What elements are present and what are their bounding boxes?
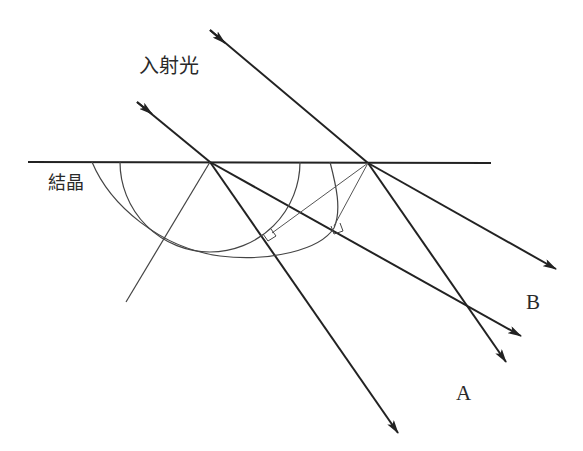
elliptical-wavefront <box>92 162 338 258</box>
birefringence-diagram <box>0 0 583 451</box>
refracted-ray-b-right <box>368 163 556 269</box>
refracted-ray-a-left <box>210 162 398 433</box>
incident-light-label: 入射光 <box>139 56 199 76</box>
right-angle-marker-ordinary <box>263 229 276 241</box>
ray-b-label: B <box>526 292 540 313</box>
crystal-label: 結晶 <box>48 174 84 192</box>
crystal-surface <box>28 162 491 163</box>
tangent-line-extraordinary <box>334 163 368 226</box>
optic-axis-line <box>126 162 210 302</box>
refracted-ray-b-left <box>210 162 521 336</box>
ray-a-label: A <box>456 383 471 404</box>
circular-wavefront <box>120 162 300 252</box>
incident-arrow-left <box>137 102 152 114</box>
incident-arrow-right <box>210 30 225 43</box>
incident-ray-right <box>210 30 368 163</box>
